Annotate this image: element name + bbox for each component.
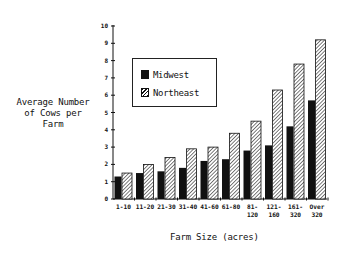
bar-midwest — [136, 173, 143, 199]
bar-midwest — [222, 159, 229, 199]
bar-midwest — [308, 100, 315, 199]
bar-midwest — [265, 145, 272, 199]
bar-northeast — [122, 173, 132, 199]
y-tick-label: 9 — [104, 39, 108, 46]
x-axis-title: Farm Size (acres) — [170, 232, 259, 242]
bar-northeast — [230, 133, 240, 199]
x-tick-label: 320 — [311, 211, 322, 218]
x-tick-label: 1-10 — [116, 203, 131, 210]
hatched-swatch-icon — [141, 88, 149, 97]
legend-label: Northeast — [153, 88, 199, 98]
x-tick-label: 81- — [247, 203, 258, 210]
bar-northeast — [294, 64, 304, 199]
x-tick-label: 120 — [247, 211, 258, 218]
solid-swatch-icon — [141, 70, 149, 79]
y-tick-label: 7 — [104, 74, 108, 81]
y-tick-label: 0 — [104, 195, 108, 202]
bar-northeast — [316, 40, 326, 199]
x-tick-label: 320 — [290, 211, 301, 218]
y-tick-label: 10 — [101, 22, 109, 29]
y-tick-label: 3 — [104, 143, 108, 150]
y-tick-label: 1 — [104, 178, 108, 185]
bar-northeast — [187, 149, 197, 199]
legend-item-northeast: Northeast — [141, 87, 199, 98]
bar-northeast — [165, 157, 175, 199]
x-tick-label: 160 — [268, 211, 279, 218]
bar-midwest — [158, 171, 165, 199]
y-tick-label: 2 — [104, 160, 108, 167]
x-tick-label: Over — [310, 203, 325, 210]
bar-midwest — [287, 126, 294, 199]
bar-midwest — [201, 161, 208, 199]
bar-midwest — [179, 168, 186, 199]
x-tick-label: 41-60 — [200, 203, 219, 210]
bar-midwest — [244, 151, 251, 199]
legend: Midwest Northeast — [132, 58, 217, 107]
bar-northeast — [208, 147, 218, 199]
legend-item-midwest: Midwest — [141, 69, 189, 80]
x-tick-label: 161- — [288, 203, 303, 210]
bar-northeast — [251, 121, 261, 199]
x-tick-label: 21-30 — [157, 203, 176, 210]
bar-midwest — [115, 177, 122, 199]
x-tick-label: 61-80 — [222, 203, 241, 210]
y-axis-title: Average Number of Cows per Farm — [0, 97, 106, 130]
x-tick-label: 11-20 — [136, 203, 155, 210]
x-tick-label: 31-40 — [179, 203, 198, 210]
bar-northeast — [273, 90, 283, 199]
legend-label: Midwest — [153, 70, 189, 80]
bar-northeast — [144, 164, 154, 199]
y-tick-label: 8 — [104, 57, 108, 64]
x-tick-label: 121- — [267, 203, 282, 210]
